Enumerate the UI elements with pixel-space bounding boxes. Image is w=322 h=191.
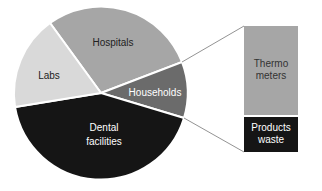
pie-of-bar-chart: Hospitals Labs Households Dental facilit… (0, 0, 322, 191)
label-thermo-line1: Thermo (254, 58, 289, 69)
connector-top (182, 26, 244, 62)
connector-bottom (184, 118, 244, 152)
label-products-line2: waste (257, 134, 285, 145)
label-households: Households (129, 87, 182, 98)
label-dental-line2: facilities (86, 136, 122, 147)
label-thermo-line2: meters (256, 70, 287, 81)
label-labs: Labs (38, 70, 60, 81)
label-hospitals: Hospitals (92, 37, 133, 48)
label-products-line1: Products (251, 122, 290, 133)
label-dental-line1: Dental (90, 122, 119, 133)
